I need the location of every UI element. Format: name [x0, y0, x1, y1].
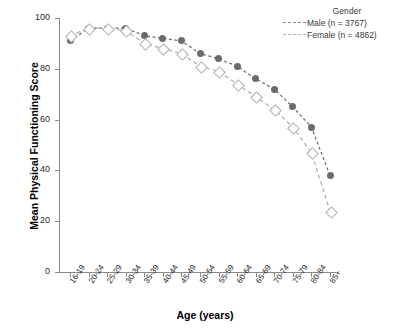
data-point-male [327, 172, 334, 179]
chart-figure: Gender Male (n = 3767) Female (n = 4862)… [0, 0, 415, 331]
series-lines [0, 0, 415, 331]
x-axis-title: Age (years) [130, 309, 280, 321]
data-point-male [271, 86, 278, 93]
plot-area: 020406080100 16-1920-2425-2930-3435-3940… [0, 0, 415, 331]
data-point-male [234, 63, 241, 70]
data-point-male [308, 124, 315, 131]
y-axis-title: Mean Physical Functioning Score [28, 21, 40, 271]
data-point-male [197, 50, 204, 57]
